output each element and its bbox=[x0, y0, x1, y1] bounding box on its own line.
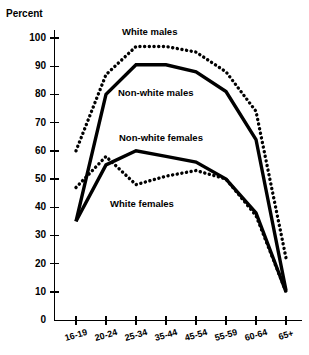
plot-area bbox=[0, 0, 309, 355]
data-series-group bbox=[76, 46, 286, 291]
chart-container: Percent 1009080706050403020100 16-1920-2… bbox=[0, 0, 309, 355]
series-line-non-white-males bbox=[76, 65, 286, 291]
series-line-white-males bbox=[76, 46, 286, 258]
series-line-white-females bbox=[76, 156, 286, 291]
